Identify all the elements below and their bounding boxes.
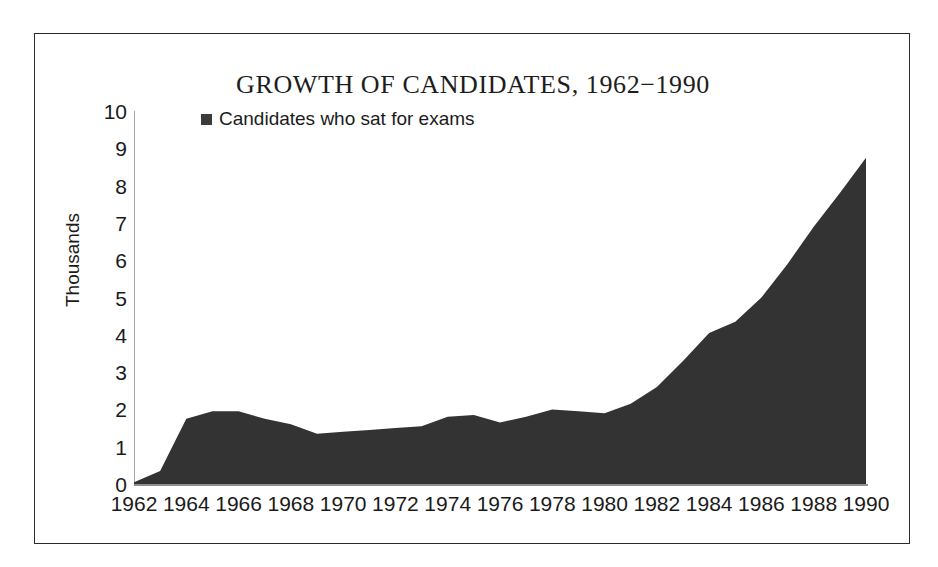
area-series-path: [134, 158, 866, 484]
y-axis-tick-label: 4: [67, 324, 127, 345]
y-axis-tick-label: 8: [67, 175, 127, 196]
plot-area: [134, 111, 866, 484]
y-axis-tick-label: 5: [67, 287, 127, 308]
y-axis-tick-label: 7: [67, 212, 127, 233]
chart-figure: GROWTH OF CANDIDATES, 1962−1990 Candidat…: [0, 0, 938, 567]
x-axis-tick-labels: 1962196419661968197019721974197619781980…: [134, 492, 868, 532]
y-axis-tick-label: 2: [67, 399, 127, 420]
chart-frame: GROWTH OF CANDIDATES, 1962−1990 Candidat…: [34, 33, 910, 544]
y-axis-tick-label: 6: [67, 250, 127, 271]
x-axis-line: [134, 484, 868, 486]
area-series: [134, 111, 866, 484]
y-axis-tick-label: 10: [67, 101, 127, 122]
x-axis-tick-label: 1990: [831, 492, 901, 516]
y-axis-tick-labels: 109876543210: [59, 34, 127, 545]
y-axis-tick-label: 9: [67, 138, 127, 159]
y-axis-tick-label: 3: [67, 362, 127, 383]
chart-title: GROWTH OF CANDIDATES, 1962−1990: [35, 70, 911, 100]
y-axis-tick-label: 1: [67, 436, 127, 457]
